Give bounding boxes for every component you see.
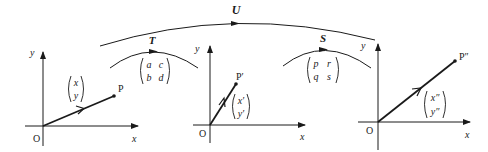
s-label: S [320,32,326,44]
coordinate-vector: x′ y′ [233,94,250,119]
s-matrix: p r q s [308,57,339,83]
origin-label: O [33,133,40,144]
panel-after-t: y x O P′ x′ y′ [193,43,305,143]
t-arc [110,52,198,68]
panel-original: y x O P x y [25,47,138,146]
vector-left-paren [233,94,236,119]
point-label: P′ [236,71,244,82]
t-matrix-d: d [159,72,165,83]
vector-right-paren [81,76,84,102]
vector-y: y″ [430,106,440,117]
origin-label: O [199,128,206,139]
t-matrix: a c b d [141,58,170,84]
origin-label: O [366,125,373,136]
t-matrix-b: b [147,72,152,83]
x-axis-label: x [299,131,305,142]
s-matrix-s: s [327,71,331,82]
vector-left-paren [69,76,72,102]
s-matrix-q: q [314,71,319,82]
point-p-double-prime [453,59,457,63]
transformation-u: U [100,3,375,46]
vector-x: x″ [430,92,440,103]
t-matrix-left-paren [141,58,144,84]
s-arrowhead-icon [319,47,328,52]
vector-y: y [73,90,79,101]
s-matrix-r: r [327,58,331,69]
t-matrix-right-paren [167,58,170,84]
panel-after-s: y x O P″ x″ y″ [358,40,470,150]
t-arrowhead-icon [149,49,158,54]
point-label: P [118,83,124,94]
vector-x: x′ [237,95,245,106]
u-label: U [232,3,242,17]
transformation-diagram: U T a c b d S p r q s y x [0,0,488,152]
y-axis-label: y [194,43,200,54]
s-matrix-left-paren [308,57,311,83]
x-axis-label: x [131,133,137,144]
vector-x: x [73,77,79,88]
vector-y: y′ [237,108,245,119]
point-label: P″ [459,51,469,62]
u-arc [100,23,375,46]
coordinate-vector: x″ y″ [425,91,446,118]
s-matrix-p: p [313,58,319,69]
t-label: T [149,34,157,46]
point-p-prime [234,82,238,86]
point-p [112,94,116,98]
t-matrix-c: c [159,59,164,70]
y-axis-label: y [29,47,35,58]
coordinate-vector: x y [69,76,84,102]
s-matrix-right-paren [336,57,339,83]
vector-right-paren [443,91,446,118]
transformation-s: S p r q s [283,32,371,83]
x-axis-label: x [464,129,470,140]
transformation-t: T a c b d [110,34,198,84]
vector-left-paren [425,91,428,118]
vector-right-paren [247,94,250,119]
u-arrowhead-icon [231,21,240,26]
position-vector [43,96,114,126]
y-axis-label: y [360,40,366,51]
t-matrix-a: a [147,59,152,70]
